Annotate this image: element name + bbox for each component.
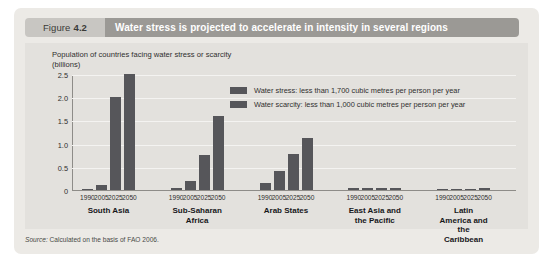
bar: [82, 189, 93, 191]
x-axis-tick-label: 2050: [300, 194, 315, 201]
bar: [479, 188, 490, 190]
figure-number: 4.2: [74, 22, 88, 33]
x-axis-tick-label: 2050: [122, 194, 137, 201]
plot-area: 00.51.01.52.02.51990200520252050South As…: [72, 75, 516, 191]
bar: [451, 189, 462, 191]
source-note: Source: Calculated on the basis of FAO 2…: [25, 236, 159, 243]
chart-panel: Population of countries facing water str…: [25, 43, 528, 229]
y-axis-line: [72, 75, 73, 191]
bar: [171, 188, 182, 190]
x-axis-tick-label: 2005: [183, 194, 198, 201]
bar: [437, 189, 448, 191]
source-text: Calculated on the basis of FAO 2006.: [50, 236, 159, 243]
y-axis-tick-label: 1.5: [58, 117, 68, 126]
x-axis-tick-label: 2005: [360, 194, 375, 201]
x-axis-tick-label: 2025: [463, 194, 478, 201]
figure-title: Water stress is projected to accelerate …: [115, 22, 448, 33]
bar: [185, 181, 196, 190]
x-axis-tick-label: 2025: [374, 194, 389, 201]
figure-title-bar: Water stress is projected to accelerate …: [105, 18, 519, 37]
gridline: [72, 145, 516, 146]
group-label: East Asia and the Pacific: [349, 206, 401, 225]
y-axis-tick-label: 1.0: [58, 140, 68, 149]
gridline: [72, 121, 516, 122]
gridline: [72, 75, 516, 76]
bar: [274, 171, 285, 190]
figure-header: Figure 4.2 Water stress is projected to …: [25, 18, 519, 37]
chart-axis-title: Population of countries facing water str…: [52, 50, 231, 70]
bar: [390, 188, 401, 190]
x-axis-tick-label: 2050: [388, 194, 403, 201]
group-label: South Asia: [88, 206, 129, 216]
bar: [348, 188, 359, 190]
x-axis-tick-label: 2050: [211, 194, 226, 201]
bar: [302, 138, 313, 190]
x-axis-tick-label: 1990: [80, 194, 95, 201]
x-axis-tick-label: 1990: [258, 194, 273, 201]
figure-label: Figure: [43, 22, 71, 33]
figure-tag: Figure 4.2: [25, 18, 105, 37]
bar: [199, 155, 210, 190]
y-axis-tick-label: 2.0: [58, 94, 68, 103]
x-axis-tick-label: 2005: [94, 194, 109, 201]
x-axis-tick-label: 2025: [286, 194, 301, 201]
figure-card: Figure 4.2 Water stress is projected to …: [14, 8, 539, 254]
x-axis-tick-label: 1990: [346, 194, 361, 201]
x-axis-tick-label: 2050: [477, 194, 492, 201]
bar: [124, 74, 135, 190]
bar: [465, 189, 476, 191]
x-axis-tick-label: 1990: [435, 194, 450, 201]
x-axis-tick-label: 2005: [272, 194, 287, 201]
group-label: Latin America and the Caribbean: [437, 206, 489, 244]
source-prefix: Source:: [25, 236, 48, 243]
x-axis-tick-label: 2025: [197, 194, 212, 201]
group-label: Sub-Saharan Africa: [173, 206, 222, 225]
bar: [213, 116, 224, 190]
y-axis-tick-label: 0.5: [58, 163, 68, 172]
x-axis-tick-label: 2025: [108, 194, 123, 201]
bar: [260, 183, 271, 190]
bar: [288, 154, 299, 190]
x-axis-tick-label: 2005: [449, 194, 464, 201]
bar: [96, 185, 107, 190]
y-axis-tick-label: 2.5: [58, 71, 68, 80]
x-axis-tick-label: 1990: [169, 194, 184, 201]
bar: [376, 188, 387, 190]
y-axis-tick-label: 0: [64, 187, 68, 196]
group-label: Arab States: [264, 206, 308, 216]
x-axis-line: [72, 190, 516, 191]
bar: [110, 97, 121, 190]
gridline: [72, 98, 516, 99]
bar: [362, 188, 373, 190]
